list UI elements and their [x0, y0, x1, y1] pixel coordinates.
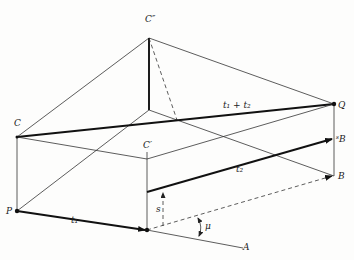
- edge-to-b: [177, 120, 334, 176]
- label-b: B: [337, 171, 345, 181]
- label-q: Q: [338, 100, 346, 110]
- point-p: [15, 209, 19, 213]
- line-to-a: [147, 230, 243, 248]
- label-s-b: ˢB: [336, 134, 346, 144]
- label-p: P: [5, 206, 13, 216]
- diagram-canvas: C″ C C′ Q P ˢB B A t₁ t₂ t₁ + t₂ s μ: [0, 0, 354, 260]
- label-mu: μ: [205, 221, 211, 231]
- label-a: A: [242, 242, 250, 252]
- label-s: s: [156, 204, 161, 214]
- vector-t1: [17, 211, 145, 230]
- edge-inner-right: [149, 110, 177, 120]
- label-c-prime: C′: [143, 140, 152, 150]
- vector-t1-plus-t2: [17, 104, 334, 137]
- edge-c2-q: [149, 38, 334, 104]
- edge-c2-dashed: [149, 38, 177, 120]
- point-c: [16, 136, 19, 139]
- point-lower-vertex: [145, 228, 149, 232]
- edge-c2-c: [17, 38, 149, 137]
- edge-c-cprime: [17, 137, 147, 159]
- label-c: C: [14, 118, 21, 128]
- label-t1: t₁: [71, 215, 78, 225]
- label-t2: t₂: [236, 164, 244, 174]
- point-q: [332, 102, 336, 106]
- edge-cprime-q: [147, 104, 334, 159]
- relative-velocity-diagram: C″ C C′ Q P ˢB B A t₁ t₂ t₁ + t₂ s μ: [0, 0, 354, 260]
- mu-angle-arc: [198, 218, 201, 236]
- label-t1-plus-t2: t₁ + t₂: [223, 100, 251, 110]
- label-c-double-prime: C″: [145, 14, 156, 24]
